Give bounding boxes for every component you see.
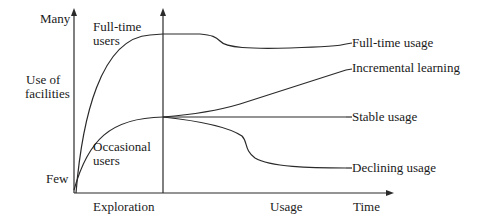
- curve-full-time-usage: [163, 34, 346, 48]
- label-declining-usage: Declining usage: [352, 160, 436, 175]
- label-full-time-users: Full-timeusers: [93, 19, 142, 48]
- x-phase-exploration: Exploration: [93, 199, 155, 214]
- curve-full-time-users: [76, 34, 163, 193]
- x-phase-usage: Usage: [270, 199, 303, 214]
- label-occasional-users: Occasionalusers: [93, 139, 151, 168]
- label-incremental-learning: Incremental learning: [352, 60, 460, 75]
- y-axis-title: Use offacilities: [25, 72, 70, 101]
- curve-declining-usage: [163, 117, 346, 168]
- curve-incremental-learning: [163, 70, 346, 117]
- label-full-time-usage: Full-time usage: [352, 35, 433, 50]
- y-tick-many: Many: [40, 11, 71, 26]
- y-tick-few: Few: [46, 171, 69, 186]
- x-axis-title-time: Time: [353, 199, 380, 214]
- usage-phases-diagram: Many Use offacilities Few Full-timeusers…: [0, 0, 477, 221]
- label-stable-usage: Stable usage: [352, 109, 418, 124]
